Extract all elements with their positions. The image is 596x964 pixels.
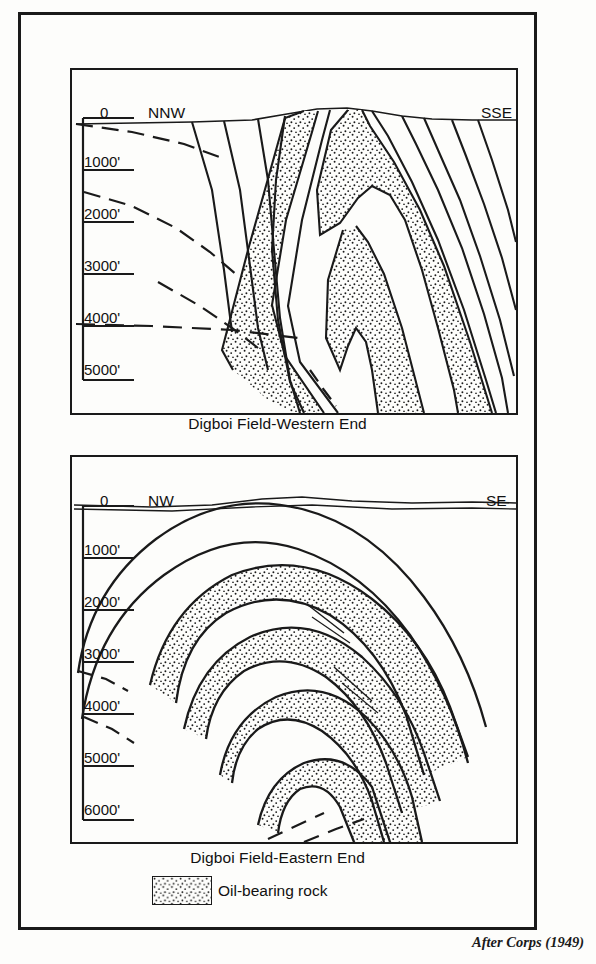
direction-label-upper-left: NNW (148, 104, 185, 122)
figure-root: 0 1000' 2000' 3000' 4000' 5000' NNW SSE … (0, 0, 596, 964)
depth-tick-label-lower-4000: 4000' (84, 697, 120, 714)
depth-tick-label-upper-3000: 3000' (84, 257, 120, 274)
depth-tick-label-upper-0: 0 (100, 104, 108, 121)
caption-lower: Digboi Field-Eastern End (18, 849, 537, 867)
depth-tick-label-lower-3000: 3000' (84, 645, 120, 662)
direction-label-lower-left: NW (148, 492, 174, 510)
caption-upper: Digboi Field-Western End (18, 415, 537, 433)
depth-tick-label-upper-2000: 2000' (84, 205, 120, 222)
bedding-line-sse-5 (478, 120, 516, 242)
legend: Oil-bearing rock (152, 876, 327, 905)
source-credit: After Corps (1949) (472, 934, 584, 951)
depth-tick-label-lower-6000: 6000' (84, 801, 120, 818)
bedding-line-sse-4 (452, 120, 516, 310)
depth-tick-label-lower-0: 0 (100, 492, 108, 509)
depth-tick-label-upper-4000: 4000' (84, 309, 120, 326)
depth-scale-upper (76, 110, 142, 388)
depth-tick-label-lower-2000: 2000' (84, 593, 120, 610)
stipple-oil-bearing-icon (152, 876, 212, 905)
depth-tick-label-upper-5000: 5000' (84, 361, 120, 378)
depth-tick-label-lower-5000: 5000' (84, 749, 120, 766)
depth-tick-label-upper-1000: 1000' (84, 153, 120, 170)
legend-label: Oil-bearing rock (218, 882, 327, 900)
direction-label-lower-right: SE (486, 492, 507, 510)
depth-tick-label-lower-1000: 1000' (84, 541, 120, 558)
direction-label-upper-right: SSE (481, 104, 512, 122)
